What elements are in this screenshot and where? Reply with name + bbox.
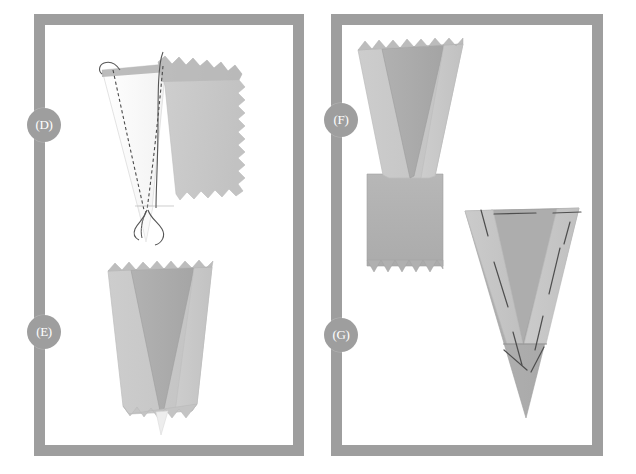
step-badge-d: (D) xyxy=(27,108,61,142)
cone-tip xyxy=(156,411,168,435)
panel-right-canvas xyxy=(331,14,603,456)
panel-left xyxy=(34,14,304,456)
step-d-figure xyxy=(34,24,304,254)
step-badge-g: (G) xyxy=(324,318,358,352)
step-badge-g-label: (G) xyxy=(332,327,349,343)
step-badge-e-label: (E) xyxy=(36,324,52,340)
grey-panel-top-band xyxy=(158,56,242,82)
panel-left-canvas xyxy=(34,14,304,456)
loose-thread-b xyxy=(148,210,164,245)
step-badge-d-label: (D) xyxy=(35,117,52,133)
step-badge-f: (F) xyxy=(324,103,358,137)
white-cone xyxy=(102,64,166,239)
panel-right xyxy=(331,14,603,456)
step-badge-f-label: (F) xyxy=(334,112,349,128)
figure-stage: (D) (E) xyxy=(0,0,636,474)
step-g-figure xyxy=(331,192,603,442)
step-badge-e: (E) xyxy=(27,315,61,349)
step-e-figure xyxy=(34,249,304,439)
